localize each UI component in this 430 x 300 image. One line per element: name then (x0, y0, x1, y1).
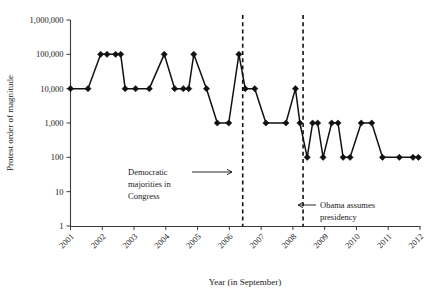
data-point-marker (161, 51, 167, 57)
data-point-marker (85, 86, 91, 92)
annotation-obama-line-1: Obama assumes (320, 200, 375, 210)
y-axis-title: Protest order of magnitude (5, 75, 15, 171)
data-point-marker (358, 120, 364, 126)
chart-canvas: 1,000,000100,00010,0001,000100101 200120… (0, 0, 430, 300)
x-tick-label: 2001 (57, 231, 76, 250)
y-tick-label: 1,000 (44, 118, 63, 128)
y-tick-label: 10,000 (40, 84, 63, 94)
data-point-marker (396, 154, 402, 160)
data-point-marker (263, 120, 269, 126)
protest-series-line (71, 54, 419, 157)
data-point-marker (369, 120, 375, 126)
x-tick-label: 2011 (375, 231, 394, 250)
annotation-democratic-majorities: Democratic majorities in Congress (128, 167, 232, 201)
x-tick-label: 2004 (152, 231, 172, 251)
x-tick-label: 2002 (89, 231, 108, 250)
x-tick-label: 2007 (247, 231, 266, 250)
annotation-vertical-lines (243, 15, 303, 226)
data-point-marker (172, 86, 178, 92)
data-point-marker (118, 51, 124, 57)
data-point-marker (283, 120, 289, 126)
protest-series-markers (67, 51, 421, 160)
data-point-marker (133, 86, 139, 92)
data-point-marker (186, 86, 192, 92)
data-point-marker (146, 86, 152, 92)
protest-magnitude-chart: 1,000,000100,00010,0001,000100101 200120… (0, 0, 430, 300)
data-point-marker (98, 51, 104, 57)
data-point-marker (104, 51, 110, 57)
y-tick-label: 1 (59, 221, 63, 231)
x-tick-label: 2006 (216, 231, 235, 250)
data-point-marker (315, 120, 321, 126)
data-point-marker (214, 120, 220, 126)
data-point-marker (347, 154, 353, 160)
data-point-marker (122, 86, 128, 92)
data-point-marker (297, 120, 303, 126)
data-point-marker (226, 120, 232, 126)
x-tick-label: 2012 (406, 231, 425, 250)
annotation-democratic-line-3: Congress (128, 191, 160, 201)
data-point-marker (292, 86, 298, 92)
data-point-marker (415, 154, 421, 160)
data-point-marker (340, 154, 346, 160)
y-tick-label: 10 (55, 187, 64, 197)
y-tick-label: 1,000,000 (30, 15, 64, 25)
data-point-marker (67, 86, 73, 92)
data-point-marker (329, 120, 335, 126)
annotation-democratic-line-2: majorities in (128, 179, 171, 189)
annotation-democratic-line-1: Democratic (128, 167, 168, 177)
x-axis-tick-labels: 2001200220032004200520062007200820092010… (57, 231, 426, 251)
y-tick-label: 100,000 (36, 49, 64, 59)
x-tick-label: 2008 (279, 231, 298, 250)
y-tick-label: 100 (51, 152, 64, 162)
data-point-marker (335, 120, 341, 126)
x-axis-title: Year (in September) (209, 277, 282, 287)
x-tick-label: 2010 (343, 231, 362, 250)
annotation-obama-line-2: presidency (320, 212, 358, 222)
annotation-obama-presidency: Obama assumes presidency (298, 200, 375, 222)
data-point-marker (252, 86, 258, 92)
x-tick-label: 2009 (311, 231, 330, 250)
y-axis-ticks (67, 20, 71, 226)
data-point-marker (320, 154, 326, 160)
data-point-marker (203, 86, 209, 92)
x-tick-label: 2005 (184, 231, 203, 250)
x-tick-label: 2003 (120, 231, 139, 250)
data-point-marker (236, 51, 242, 57)
data-point-marker (304, 154, 310, 160)
y-axis-tick-labels: 1,000,000100,00010,0001,000100101 (30, 15, 64, 231)
data-point-marker (379, 154, 385, 160)
data-point-marker (191, 51, 197, 57)
